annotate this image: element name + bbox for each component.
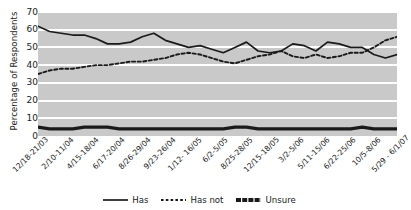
x-axis-tick-labels: 12/18-21/032/10-11/044/15-18/046/17-20/0… (0, 136, 399, 190)
series-lines (38, 12, 397, 136)
legend-swatch (103, 196, 128, 204)
chart-legend: HasHas notUnsure (0, 192, 399, 208)
plot-area (38, 12, 397, 136)
y-axis-tick: 70 (18, 8, 38, 17)
legend-item-has-not: Has not (161, 195, 223, 205)
legend-label: Has (132, 195, 148, 205)
y-axis-tick: 60 (18, 25, 38, 34)
y-axis-tick: 40 (18, 61, 38, 70)
legend-label: Has not (190, 195, 223, 205)
y-axis-tick: 50 (18, 43, 38, 52)
legend-item-unsure: Unsure (236, 195, 295, 205)
y-axis-tick: 10 (18, 114, 38, 123)
series-line-has (38, 26, 397, 58)
y-axis-tick-labels: 706050403020100 (18, 0, 38, 140)
y-axis-tick: 30 (18, 78, 38, 87)
legend-label: Unsure (265, 195, 295, 205)
legend-item-has: Has (103, 195, 148, 205)
legend-swatch (236, 196, 261, 204)
series-line-unsure (38, 127, 397, 129)
y-axis-tick: 20 (18, 96, 38, 105)
series-line-has-not (38, 37, 397, 74)
legend-swatch (161, 196, 186, 204)
